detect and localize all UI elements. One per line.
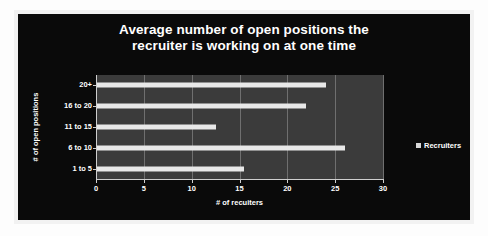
- x-tick-mark: [144, 180, 145, 183]
- x-tick-mark: [287, 180, 288, 183]
- legend-entry-label: Recruiters: [424, 141, 461, 150]
- y-axis-line: [96, 75, 97, 180]
- legend-swatch-icon: [416, 143, 421, 148]
- bar-1-to-5: [96, 166, 244, 171]
- chart-title-line-1: Average number of open positions the: [18, 22, 470, 38]
- y-tick-mark: [93, 85, 96, 86]
- x-tick-mark: [335, 180, 336, 183]
- chart-title-line-2: recruiter is working on at one time: [18, 38, 470, 54]
- bar-16-to-20: [96, 104, 306, 109]
- bar-11-to-15: [96, 124, 216, 129]
- x-axis-tick-label: 25: [320, 184, 350, 193]
- y-axis-title: # of open positions: [30, 75, 42, 179]
- bar-row: [96, 158, 383, 179]
- x-gridline: [383, 75, 384, 179]
- bar-row: [96, 75, 383, 96]
- plot-area: [96, 75, 383, 179]
- chart-frame: Average number of open positions the rec…: [14, 10, 474, 224]
- chart-panel: Average number of open positions the rec…: [18, 14, 470, 220]
- x-tick-mark: [192, 180, 193, 183]
- chart-title: Average number of open positions the rec…: [18, 22, 470, 54]
- x-axis-tick-label: 0: [81, 184, 111, 193]
- chart-legend: Recruiters: [416, 141, 461, 150]
- y-tick-mark: [93, 169, 96, 170]
- x-axis-tick-label: 30: [368, 184, 398, 193]
- bar-6-to-10: [96, 145, 345, 150]
- chart-screenshot: Average number of open positions the rec…: [0, 0, 488, 236]
- x-axis-tick-label: 5: [129, 184, 159, 193]
- x-axis-tick-label: 15: [225, 184, 255, 193]
- y-tick-mark: [93, 106, 96, 107]
- x-tick-mark: [383, 180, 384, 183]
- bar-20plus: [96, 83, 326, 88]
- y-tick-mark: [93, 148, 96, 149]
- x-axis-tick-label: 10: [177, 184, 207, 193]
- x-axis-title: # of recuiters: [96, 198, 383, 207]
- y-tick-mark: [93, 127, 96, 128]
- bar-row: [96, 117, 383, 138]
- x-tick-mark: [96, 180, 97, 183]
- x-tick-mark: [240, 180, 241, 183]
- bar-row: [96, 96, 383, 117]
- bar-row: [96, 137, 383, 158]
- x-axis-tick-label: 20: [272, 184, 302, 193]
